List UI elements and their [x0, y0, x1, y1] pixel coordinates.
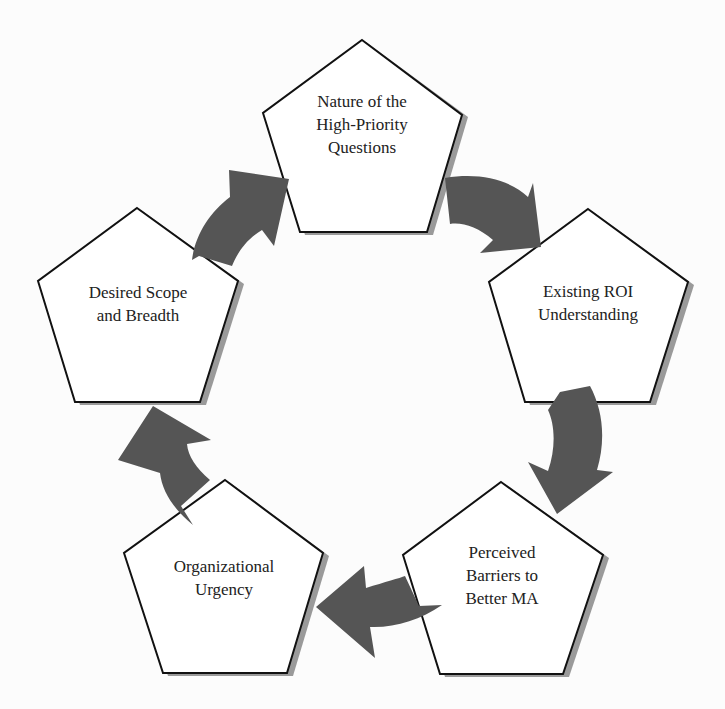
- arrow-scope-to-nature-icon: [192, 170, 289, 266]
- label-line: Understanding: [538, 303, 638, 326]
- label-line: Desired Scope: [89, 281, 188, 304]
- label-line: Better MA: [465, 587, 538, 610]
- node-label-roi: Existing ROI Understanding: [538, 280, 638, 326]
- arrow-roi-to-barriers-icon: [528, 386, 613, 514]
- node-label-scope: Desired Scope and Breadth: [89, 281, 188, 327]
- arrow-nature-to-roi-icon: [445, 176, 541, 253]
- label-line: Organizational: [174, 555, 275, 578]
- label-line: Barriers to: [465, 564, 538, 587]
- label-line: Nature of the: [316, 90, 408, 113]
- label-line: Perceived: [465, 541, 538, 564]
- label-line: High-Priority: [316, 113, 408, 136]
- label-line: Questions: [316, 136, 408, 159]
- label-line: and Breadth: [89, 304, 188, 327]
- node-label-nature: Nature of the High-Priority Questions: [316, 90, 408, 159]
- node-label-barriers: Perceived Barriers to Better MA: [465, 541, 538, 610]
- node-label-urgency: Organizational Urgency: [174, 555, 275, 601]
- label-line: Urgency: [174, 578, 275, 601]
- label-line: Existing ROI: [538, 280, 638, 303]
- cycle-diagram: Nature of the High-Priority Questions Ex…: [0, 0, 725, 709]
